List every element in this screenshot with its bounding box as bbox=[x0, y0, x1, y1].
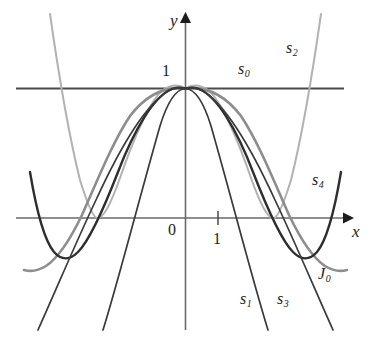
curve-label-s3: s3 bbox=[277, 291, 289, 307]
curve-label-s0-sub: 0 bbox=[244, 68, 250, 79]
x-tick-label-1: 1 bbox=[213, 231, 221, 247]
curve-label-s0: s0 bbox=[238, 61, 250, 77]
curve-label-s1-sub: 1 bbox=[246, 298, 252, 309]
axes-group bbox=[16, 22, 344, 330]
y-axis-label: y bbox=[170, 12, 178, 29]
y-tick-label-1: 1 bbox=[162, 63, 170, 79]
bessel-partial-sums-figure: y x 0 1 1 s0 s2 s4 J0 s1 s3 bbox=[0, 0, 374, 337]
curve-label-s4: s4 bbox=[312, 172, 324, 188]
origin-label: 0 bbox=[168, 222, 176, 238]
curve-label-s2: s2 bbox=[286, 40, 298, 56]
x-axis-label: x bbox=[352, 223, 360, 240]
curve-label-s1: s1 bbox=[240, 291, 252, 307]
curve-label-s4-sub: 4 bbox=[318, 179, 324, 190]
curve-label-s3-sub: 3 bbox=[283, 298, 289, 309]
curve-label-j0-sub: 0 bbox=[325, 273, 331, 284]
curve-label-j0: J0 bbox=[318, 266, 331, 282]
plot-canvas bbox=[0, 0, 374, 337]
curve-label-s2-sub: 2 bbox=[292, 47, 298, 58]
